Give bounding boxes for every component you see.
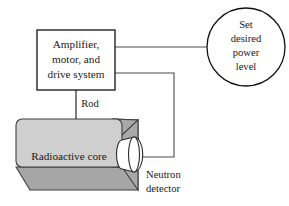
detector-label-line-1: Neutron <box>146 169 181 180</box>
controller-label-line-3: drive system <box>48 68 105 80</box>
controller-label-line-2: motor, and <box>52 53 100 65</box>
neutron-detector-cap <box>129 137 140 172</box>
setpoint-label-line-2: desired <box>231 33 262 44</box>
rod-label: Rod <box>81 98 99 109</box>
controller-label-line-1: Amplifier, <box>53 38 100 50</box>
setpoint-label-line-4: level <box>236 61 257 72</box>
reactor-control-diagram: Amplifier, motor, and drive system Set d… <box>0 0 289 206</box>
detector-label-line-2: detector <box>146 183 181 194</box>
setpoint-label-line-3: power <box>233 47 260 58</box>
diagram-canvas: Amplifier, motor, and drive system Set d… <box>0 0 289 206</box>
setpoint-label-line-1: Set <box>239 19 253 30</box>
reactor-core-label: Radioactive core <box>31 150 107 162</box>
